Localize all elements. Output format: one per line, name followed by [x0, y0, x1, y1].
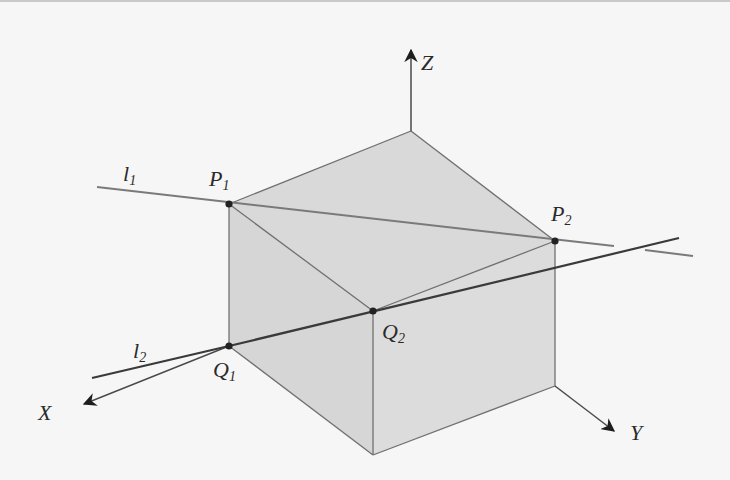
line-l1-segment-tail	[645, 250, 693, 256]
box-faces	[229, 131, 555, 455]
skew-lines-diagram: Z X Y l1 l2 P1 P2 Q1 Q2	[0, 0, 730, 480]
label-y-text: Y	[630, 420, 642, 445]
y-axis	[555, 386, 614, 431]
label-p2-sub: 2	[564, 213, 571, 228]
point-p2	[551, 237, 558, 244]
label-q1-sub: 1	[229, 369, 236, 384]
label-p2: P2	[551, 203, 571, 228]
label-q1-base: Q	[213, 357, 229, 382]
label-y-axis: Y	[630, 422, 642, 444]
label-q2: Q2	[382, 321, 405, 346]
label-p1-base: P	[209, 166, 222, 191]
point-q2	[369, 307, 376, 314]
point-p1	[225, 200, 232, 207]
label-l1: l1	[123, 163, 136, 188]
label-z-axis: Z	[421, 52, 433, 74]
label-p2-base: P	[551, 201, 564, 226]
label-z-text: Z	[421, 50, 433, 75]
diagram-canvas	[0, 0, 730, 480]
label-q2-sub: 2	[398, 331, 405, 346]
label-l1-sub: 1	[129, 173, 136, 188]
label-x-text: X	[38, 400, 51, 425]
label-l2: l2	[133, 340, 146, 365]
label-p1-sub: 1	[222, 178, 229, 193]
label-q2-base: Q	[382, 319, 398, 344]
label-x-axis: X	[38, 402, 51, 424]
label-l2-sub: 2	[139, 350, 146, 365]
point-q1	[225, 342, 232, 349]
label-p1: P1	[209, 168, 229, 193]
label-q1: Q1	[213, 359, 236, 384]
